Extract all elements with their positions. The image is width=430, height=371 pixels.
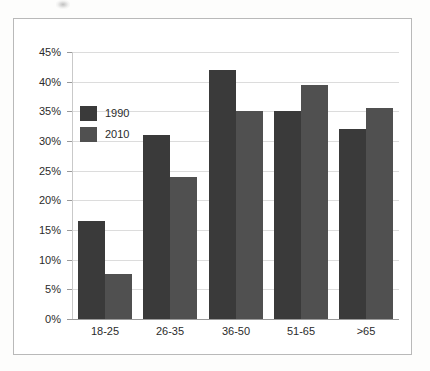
bar-1990-18-25[interactable] [78, 221, 105, 319]
y-axis-tick-label: 45% [17, 47, 61, 58]
legend-swatch-1990-icon [80, 106, 97, 121]
bar-1990-26-35[interactable] [143, 135, 170, 319]
bar-group [274, 52, 328, 319]
bar-1990-51-65[interactable] [274, 111, 301, 319]
bar-2010-51-65[interactable] [301, 85, 328, 319]
bar-2010-18-25[interactable] [105, 274, 132, 319]
y-axis-tick-label: 25% [17, 166, 61, 177]
y-axis-tick-label: 30% [17, 136, 61, 147]
y-axis-tick-label: 0% [17, 314, 61, 325]
legend-swatch-2010-icon [80, 127, 97, 142]
legend-label-2010: 2010 [105, 129, 129, 140]
chart-legend: 1990 2010 [80, 103, 129, 145]
y-axis-tick-label: 40% [17, 77, 61, 88]
x-axis-line [67, 319, 399, 320]
figure-frame: 45%40%35%30%25%20%15%10%5%0% 18-2526-353… [13, 18, 412, 355]
bar-2010->65[interactable] [366, 108, 393, 319]
y-axis-tick-label: 20% [17, 195, 61, 206]
bar-1990->65[interactable] [339, 129, 366, 319]
bar-group [143, 52, 197, 319]
bar-group [339, 52, 393, 319]
bar-2010-36-50[interactable] [236, 111, 263, 319]
bar-chart: 45%40%35%30%25%20%15%10%5%0% 18-2526-353… [14, 19, 413, 356]
bar-2010-26-35[interactable] [170, 177, 197, 319]
legend-item-1990: 1990 [80, 103, 129, 124]
x-axis-tick-label: >65 [326, 325, 406, 337]
y-axis-tick-label: 5% [17, 284, 61, 295]
bar-group [78, 52, 132, 319]
bar-1990-36-50[interactable] [209, 70, 236, 319]
y-axis-tick-label: 35% [17, 106, 61, 117]
legend-label-1990: 1990 [105, 108, 129, 119]
bars-layer [72, 52, 399, 319]
legend-item-2010: 2010 [80, 124, 129, 145]
scan-artifact [56, 0, 70, 9]
y-axis-tick-label: 10% [17, 255, 61, 266]
y-axis-tick-label: 15% [17, 225, 61, 236]
bar-group [209, 52, 263, 319]
